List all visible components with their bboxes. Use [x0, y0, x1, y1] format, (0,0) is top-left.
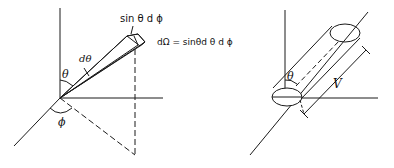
- solid-angle-figure: [14, 8, 163, 155]
- phi-label: ϕ: [58, 116, 66, 129]
- arc-label: sin θ d ϕ: [120, 13, 163, 24]
- cylinder-figure: [250, 10, 378, 155]
- solid-angle-labels: θ dθ ϕ sin θ d ϕ dΩ = sinθd θ d ϕ: [58, 13, 233, 129]
- theta-label-right: θ: [287, 70, 294, 83]
- line-of-sight: [250, 12, 368, 155]
- length-label: V: [333, 77, 343, 91]
- projection-line: [60, 98, 135, 155]
- cone: [60, 34, 145, 98]
- dtheta-label: dθ: [79, 53, 91, 64]
- cylinder-labels: θ V: [287, 70, 343, 91]
- cone-edge-upper: [60, 36, 127, 98]
- diagram-canvas: θ dθ ϕ sin θ d ϕ dΩ = sinθd θ d ϕ θ V: [0, 0, 394, 168]
- theta-label: θ: [62, 68, 69, 81]
- cone-edge-lower: [60, 42, 145, 98]
- cylinder-side-lower: [300, 38, 360, 100]
- solid-angle-equation: dΩ = sinθd θ d ϕ: [157, 37, 233, 47]
- x-axis: [14, 98, 60, 146]
- arc-leader: [131, 26, 133, 34]
- phi-arc: [50, 108, 72, 113]
